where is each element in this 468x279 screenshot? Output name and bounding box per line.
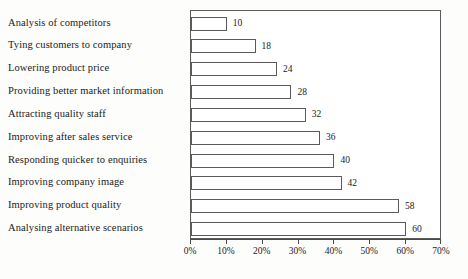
bar (191, 154, 334, 168)
bar (191, 62, 277, 76)
bars-container: 10182428323640425860 (191, 11, 440, 238)
x-axis-tick (440, 239, 441, 244)
plot-area: 10182428323640425860 (190, 10, 441, 239)
bar (191, 17, 227, 31)
x-axis-tick-label: 10% (217, 246, 234, 257)
category-label: Providing better market information (8, 85, 163, 96)
bar-value-label: 24 (283, 64, 293, 74)
bar (191, 222, 406, 236)
category-label: Tying customers to company (8, 39, 132, 50)
bar (191, 108, 306, 122)
category-label: Improving after sales service (8, 131, 132, 142)
category-label: Analysing alternative scenarios (8, 222, 143, 233)
x-axis-tick (405, 239, 406, 244)
bar-value-label: 58 (405, 201, 415, 211)
category-label: Attracting quality staff (8, 108, 106, 119)
x-axis-tick-label: 70% (432, 246, 449, 257)
x-axis-tick-label: 60% (396, 246, 413, 257)
bar-value-label: 18 (262, 41, 272, 51)
x-axis-tick (190, 239, 191, 244)
bar-value-label: 36 (326, 132, 336, 142)
bar-value-label: 40 (340, 155, 350, 165)
category-label: Analysis of competitors (8, 17, 111, 28)
bar (191, 176, 342, 190)
category-label: Improving product quality (8, 199, 121, 210)
horizontal-bar-chart: Analysis of competitorsTying customers t… (0, 0, 468, 279)
bar-value-label: 42 (348, 178, 358, 188)
x-axis-tick-label: 50% (361, 246, 378, 257)
x-axis: 0%10%20%30%40%50%60%70% (190, 239, 441, 279)
category-label: Lowering product price (8, 62, 109, 73)
bar-value-label: 28 (297, 87, 307, 97)
bar (191, 199, 399, 213)
x-axis-tick (262, 239, 263, 244)
category-label: Improving company image (8, 176, 124, 187)
bar (191, 85, 291, 99)
x-axis-line (190, 239, 441, 240)
x-axis-tick (298, 239, 299, 244)
category-label: Responding quicker to enquiries (8, 154, 147, 165)
x-axis-tick (226, 239, 227, 244)
x-axis-tick-label: 40% (325, 246, 342, 257)
x-axis-tick (369, 239, 370, 244)
x-axis-tick (333, 239, 334, 244)
bar-value-label: 10 (233, 18, 243, 28)
category-label-column: Analysis of competitorsTying customers t… (0, 10, 182, 239)
bar-value-label: 32 (312, 109, 322, 119)
x-axis-tick-label: 30% (289, 246, 306, 257)
x-axis-tick-label: 20% (253, 246, 270, 257)
x-axis-tick-label: 0% (184, 246, 197, 257)
bar-value-label: 60 (412, 224, 422, 234)
bar (191, 131, 320, 145)
bar (191, 39, 256, 53)
